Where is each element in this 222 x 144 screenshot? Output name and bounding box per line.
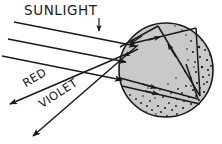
incoming-sunlight-rays xyxy=(2,22,136,80)
sunlight-label: SUNLIGHT xyxy=(24,2,98,18)
incoming-ray-2 xyxy=(8,39,126,62)
incoming-ray-3 xyxy=(2,56,122,80)
raindrop-dispersion-diagram: SUNLIGHT RED VIOLET xyxy=(0,0,222,144)
incoming-ray-1 xyxy=(14,22,136,46)
